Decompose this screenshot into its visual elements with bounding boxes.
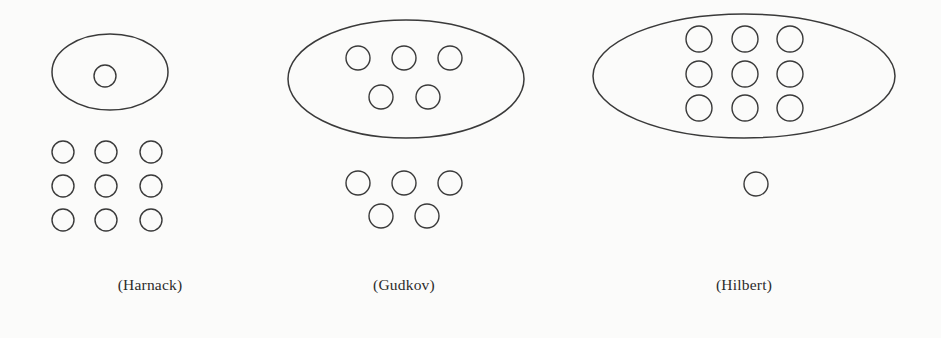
inner-oval-hilbert-9 (777, 95, 803, 121)
free-oval-gudkov-2 (392, 171, 416, 195)
oval-group-harnack: (Harnack) (52, 34, 182, 294)
free-oval-harnack-7 (52, 209, 74, 231)
oval-configurations-figure: (Harnack)(Gudkov)(Hilbert) (0, 0, 941, 338)
outer-oval-hilbert (593, 14, 895, 138)
inner-oval-gudkov-4 (369, 85, 393, 109)
free-oval-harnack-9 (140, 209, 162, 231)
free-oval-harnack-3 (140, 141, 162, 163)
group-caption-gudkov: (Gudkov) (373, 276, 435, 294)
inner-oval-gudkov-3 (438, 46, 462, 70)
inner-oval-hilbert-4 (686, 61, 712, 87)
figure-canvas: (Harnack)(Gudkov)(Hilbert) (0, 0, 941, 338)
free-oval-harnack-8 (95, 209, 117, 231)
oval-group-hilbert: (Hilbert) (593, 14, 895, 294)
inner-oval-gudkov-1 (346, 46, 370, 70)
inner-oval-hilbert-2 (732, 26, 758, 52)
oval-group-gudkov: (Gudkov) (288, 20, 524, 294)
group-caption-harnack: (Harnack) (118, 276, 183, 294)
free-oval-gudkov-5 (415, 204, 439, 228)
group-caption-hilbert: (Hilbert) (716, 276, 772, 294)
free-oval-harnack-2 (95, 141, 117, 163)
inner-oval-hilbert-8 (732, 95, 758, 121)
free-oval-gudkov-1 (346, 171, 370, 195)
inner-oval-hilbert-7 (686, 95, 712, 121)
free-oval-harnack-6 (140, 175, 162, 197)
inner-oval-harnack-1 (94, 65, 116, 87)
free-oval-harnack-4 (52, 175, 74, 197)
inner-oval-gudkov-2 (392, 46, 416, 70)
outer-oval-gudkov (288, 20, 524, 138)
inner-oval-hilbert-5 (732, 61, 758, 87)
free-oval-hilbert-1 (744, 172, 768, 196)
outer-oval-harnack (52, 34, 168, 110)
free-oval-harnack-5 (95, 175, 117, 197)
free-oval-harnack-1 (52, 141, 74, 163)
inner-oval-hilbert-1 (686, 26, 712, 52)
inner-oval-hilbert-3 (777, 26, 803, 52)
inner-oval-gudkov-5 (416, 85, 440, 109)
free-oval-gudkov-4 (369, 204, 393, 228)
free-oval-gudkov-3 (438, 171, 462, 195)
inner-oval-hilbert-6 (777, 61, 803, 87)
